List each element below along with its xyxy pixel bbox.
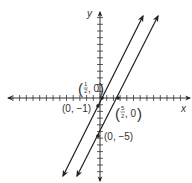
svg-text:, 0: , 0 bbox=[88, 83, 100, 94]
point-five-halves-zero bbox=[116, 96, 120, 100]
point-zero-minus-five bbox=[96, 134, 100, 138]
point-zero-minus-one bbox=[96, 104, 100, 108]
line-y-2x-minus-5 bbox=[77, 16, 158, 176]
label-half-zero: ( 1 2 , 0 ) bbox=[78, 80, 104, 97]
label-zero-minus-one: (0, −1) bbox=[62, 103, 91, 114]
svg-text:, 0: , 0 bbox=[125, 108, 137, 119]
x-axis-label: x bbox=[180, 103, 187, 114]
label-five-halves-zero: ( 5 2 , 0 ) bbox=[115, 105, 142, 122]
svg-text:(: ( bbox=[78, 80, 83, 97]
svg-text:(: ( bbox=[115, 105, 120, 122]
y-axis-label: y bbox=[86, 8, 93, 19]
svg-text:): ) bbox=[99, 80, 104, 97]
svg-text:): ) bbox=[137, 105, 142, 122]
label-zero-minus-five: (0, −5) bbox=[104, 131, 133, 142]
coordinate-graph: y x ( 1 2 , 0 ) (0, −1) ( 5 2 , 0 ) (0, … bbox=[0, 0, 192, 183]
